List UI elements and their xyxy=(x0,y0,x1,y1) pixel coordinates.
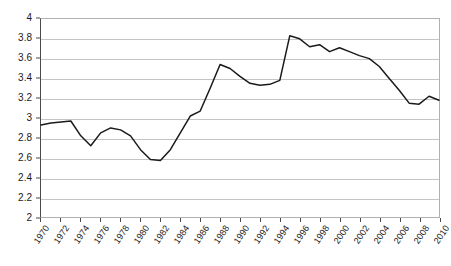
y-tick-label: 3.4 xyxy=(18,73,32,83)
x-tick-mark xyxy=(340,218,341,222)
x-tick-mark xyxy=(80,218,81,222)
x-axis: 1970197219741976197819801982198419861988… xyxy=(40,218,440,266)
x-tick-mark xyxy=(160,218,161,222)
x-tick-label: 1994 xyxy=(273,224,292,246)
x-tick-label: 1978 xyxy=(113,224,132,246)
y-tick-label: 2 xyxy=(26,213,32,223)
data-series-line xyxy=(41,19,439,217)
x-tick-label: 1990 xyxy=(233,224,252,246)
y-tick-label: 3.8 xyxy=(18,33,32,43)
x-tick-mark xyxy=(260,218,261,222)
y-tick-label: 3.6 xyxy=(18,53,32,63)
line-chart: 22.22.42.62.833.23.43.63.84 197019721974… xyxy=(0,0,451,266)
x-tick-mark xyxy=(280,218,281,222)
x-tick-label: 1998 xyxy=(313,224,332,246)
y-tick-label: 3.2 xyxy=(18,93,32,103)
x-tick-mark xyxy=(220,218,221,222)
x-tick-mark xyxy=(420,218,421,222)
y-tick-label: 3 xyxy=(26,113,32,123)
series-polyline xyxy=(41,36,439,161)
x-tick-label: 2010 xyxy=(433,224,451,246)
y-tick-label: 4 xyxy=(26,13,32,23)
x-tick-label: 1976 xyxy=(93,224,112,246)
x-tick-label: 1980 xyxy=(133,224,152,246)
x-tick-label: 2008 xyxy=(413,224,432,246)
x-tick-label: 1974 xyxy=(73,224,92,246)
y-tick-label: 2.4 xyxy=(18,173,32,183)
x-tick-mark xyxy=(380,218,381,222)
x-tick-mark xyxy=(120,218,121,222)
x-tick-label: 1972 xyxy=(53,224,72,246)
x-tick-mark xyxy=(200,218,201,222)
x-tick-label: 2002 xyxy=(353,224,372,246)
x-tick-mark xyxy=(300,218,301,222)
y-tick-label: 2.6 xyxy=(18,153,32,163)
x-tick-mark xyxy=(60,218,61,222)
x-tick-mark xyxy=(180,218,181,222)
x-tick-mark xyxy=(400,218,401,222)
x-tick-label: 1996 xyxy=(293,224,312,246)
x-tick-label: 2006 xyxy=(393,224,412,246)
x-tick-mark xyxy=(40,218,41,222)
y-axis: 22.22.42.62.833.23.43.63.84 xyxy=(0,0,40,266)
x-tick-mark xyxy=(360,218,361,222)
x-tick-mark xyxy=(140,218,141,222)
x-tick-mark xyxy=(440,218,441,222)
x-tick-label: 1992 xyxy=(253,224,272,246)
y-tick-label: 2.8 xyxy=(18,133,32,143)
x-tick-mark xyxy=(100,218,101,222)
plot-area xyxy=(40,18,440,218)
y-tick-label: 2.2 xyxy=(18,193,32,203)
x-tick-label: 1982 xyxy=(153,224,172,246)
x-tick-label: 1988 xyxy=(213,224,232,246)
x-tick-label: 1984 xyxy=(173,224,192,246)
x-tick-label: 2000 xyxy=(333,224,352,246)
x-tick-mark xyxy=(240,218,241,222)
x-tick-label: 2004 xyxy=(373,224,392,246)
x-tick-mark xyxy=(320,218,321,222)
x-tick-label: 1986 xyxy=(193,224,212,246)
